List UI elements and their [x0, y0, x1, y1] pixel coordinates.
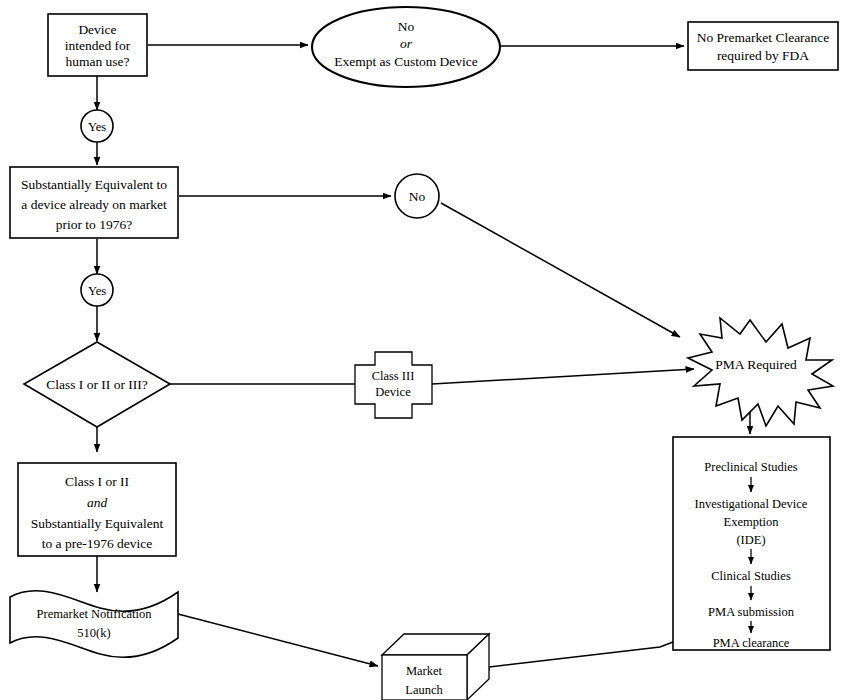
- market-launch-line-2: Launch: [405, 683, 443, 697]
- pma-pathway-step-ide-2: Exemption: [724, 515, 780, 529]
- flowchart-canvas: Device intended for human use? No or Exe…: [0, 0, 846, 700]
- flowchart-svg: Device intended for human use? No or Exe…: [0, 0, 846, 700]
- node-class-iii-device[interactable]: Class III Device: [355, 352, 432, 418]
- connector-no1-to-pma: [441, 203, 680, 337]
- pma-pathway-step-submission: PMA submission: [708, 605, 795, 619]
- node-premarket-notification-510k[interactable]: Premarket Notification 510(k): [10, 591, 178, 658]
- classq-label: Class I or II or III?: [46, 377, 148, 392]
- node-no-premarket-clearance[interactable]: No Premarket Clearance required by FDA: [688, 22, 838, 70]
- pma-pathway-step-ide-1: Investigational Device: [695, 497, 808, 511]
- pma-pathway-step-ide-3: (IDE): [736, 533, 765, 547]
- class-iii-line-1: Class III: [372, 369, 415, 383]
- node-device-intended-for-human-use[interactable]: Device intended for human use?: [48, 14, 147, 76]
- premarket-notification-line-2: 510(k): [77, 626, 110, 640]
- market-launch-line-1: Market: [406, 664, 443, 678]
- connector-label-yes-2: Yes: [81, 274, 113, 306]
- subequiv-line-2: a device already on market: [21, 197, 167, 212]
- node-substantially-equivalent-1976[interactable]: Substantially Equivalent to a device alr…: [10, 167, 178, 238]
- class-i-ii-line-2: and: [87, 495, 108, 510]
- class-i-ii-line-1: Class I or II: [65, 474, 130, 489]
- exempt-ellipse-line-2: or: [400, 36, 413, 51]
- subequiv-line-1: Substantially Equivalent to: [21, 177, 167, 192]
- class-i-ii-line-3: Substantially Equivalent: [31, 516, 164, 531]
- class-i-ii-line-4: to a pre-1976 device: [42, 536, 153, 551]
- connector-label-no-1: No: [395, 174, 439, 218]
- pma-pathway-step-clinical: Clinical Studies: [711, 569, 791, 583]
- premarket-notification-line-1: Premarket Notification: [37, 607, 153, 621]
- device-box-line-2: intended for: [65, 38, 131, 53]
- yes1-label: Yes: [88, 120, 106, 134]
- pma-required-label: PMA Required: [715, 357, 797, 372]
- node-market-launch[interactable]: Market Launch: [382, 634, 489, 700]
- pma-starburst-shape: [688, 318, 833, 426]
- connector-510k-to-market: [178, 614, 378, 666]
- connector-pathway-to-market: [481, 642, 673, 668]
- node-pma-pathway[interactable]: Preclinical Studies Investigational Devi…: [673, 437, 830, 650]
- exempt-ellipse-line-3: Exempt as Custom Device: [334, 54, 478, 69]
- node-class-i-or-ii-equivalent[interactable]: Class I or II and Substantially Equivale…: [18, 463, 176, 556]
- no-premarket-line-2: required by FDA: [717, 48, 809, 63]
- node-class-question-diamond[interactable]: Class I or II or III?: [24, 342, 170, 427]
- yes2-label: Yes: [88, 284, 106, 298]
- premarket-notification-wave-shape: [10, 591, 178, 658]
- connector-label-yes-1: Yes: [81, 110, 113, 142]
- device-box-line-3: human use?: [65, 54, 129, 69]
- device-box-line-1: Device: [78, 22, 116, 37]
- connector-classiii-to-pma: [432, 369, 694, 384]
- no-premarket-line-1: No Premarket Clearance: [697, 30, 830, 45]
- node-pma-required[interactable]: PMA Required: [688, 318, 833, 426]
- pma-pathway-step-preclinical: Preclinical Studies: [704, 460, 798, 474]
- class-iii-line-2: Device: [375, 385, 411, 399]
- pma-pathway-step-clearance: PMA clearance: [713, 636, 790, 650]
- no1-label: No: [409, 189, 426, 204]
- node-no-or-exempt-as-custom-device[interactable]: No or Exempt as Custom Device: [312, 7, 500, 87]
- subequiv-line-3: prior to 1976?: [56, 217, 133, 232]
- exempt-ellipse-line-1: No: [398, 19, 415, 34]
